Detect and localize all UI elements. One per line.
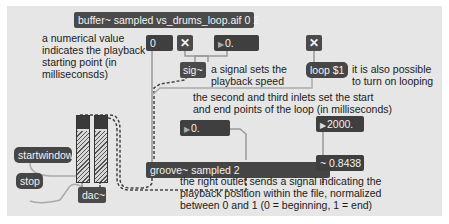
comment-line: playback position within the file, norma… bbox=[180, 187, 381, 199]
startwindow-message[interactable]: startwindow bbox=[14, 147, 72, 163]
dac-object[interactable]: dac~ bbox=[78, 187, 106, 203]
buffer-object[interactable]: buffer~ sampled vs_drums_loop.aif 0 2 bbox=[74, 12, 254, 28]
number-triangle-icon: ▶ bbox=[218, 40, 224, 49]
number-triangle-icon: ▶ bbox=[184, 125, 190, 134]
comment-line: to turn on looping bbox=[352, 75, 433, 87]
outlet-comment: the right outlet sends a signal indicati… bbox=[180, 175, 381, 211]
level-meter-right bbox=[94, 115, 108, 183]
start-point-comment: a numerical value indicates the playback… bbox=[42, 32, 145, 80]
comment-line: playback speed bbox=[211, 75, 287, 87]
speed-value: 0. bbox=[225, 37, 234, 49]
comment-line: a numerical value bbox=[42, 32, 145, 44]
comment-line: a signal sets the bbox=[211, 63, 287, 75]
stop-message[interactable]: stop bbox=[16, 173, 43, 189]
inlets-comment: the second and third inlets set the star… bbox=[193, 91, 392, 115]
loop-toggle[interactable]: ✕ bbox=[306, 35, 322, 51]
position-value: 0.8438 bbox=[329, 157, 361, 169]
loop-message[interactable]: loop $1 bbox=[306, 62, 348, 78]
loop-end-number-box[interactable]: ▶2000. bbox=[316, 116, 364, 132]
comment-line: milliseconsds) bbox=[42, 68, 145, 80]
speed-number-box[interactable]: ▶0. bbox=[214, 35, 259, 51]
signal-icon: ~ bbox=[320, 157, 326, 169]
comment-line: between 0 and 1 (0 = beginning, 1 = end) bbox=[180, 199, 381, 211]
speed-toggle[interactable]: ✕ bbox=[177, 35, 193, 51]
comment-line: starting point (in bbox=[42, 56, 145, 68]
comment-line: it is also possible bbox=[352, 63, 433, 75]
loop-start-value: 0. bbox=[191, 122, 200, 134]
level-meter-left bbox=[76, 115, 90, 183]
loop-end-value: 2000. bbox=[327, 118, 353, 130]
start-number-box[interactable]: 0 bbox=[146, 35, 173, 51]
comment-line: and end points of the loop (in milliseco… bbox=[193, 103, 392, 115]
comment-line: the right outlet sends a signal indicati… bbox=[180, 175, 381, 187]
speed-comment: a signal sets the playback speed bbox=[211, 63, 287, 87]
position-signal-display: ~ 0.8438 bbox=[316, 155, 364, 171]
comment-line: indicates the playback bbox=[42, 44, 145, 56]
loop-comment: it is also possible to turn on looping bbox=[352, 63, 433, 87]
comment-line: the second and third inlets set the star… bbox=[193, 91, 392, 103]
sig-object[interactable]: sig~ bbox=[180, 62, 206, 78]
loop-start-number-box[interactable]: ▶0. bbox=[180, 120, 230, 136]
number-triangle-icon: ▶ bbox=[320, 121, 326, 130]
